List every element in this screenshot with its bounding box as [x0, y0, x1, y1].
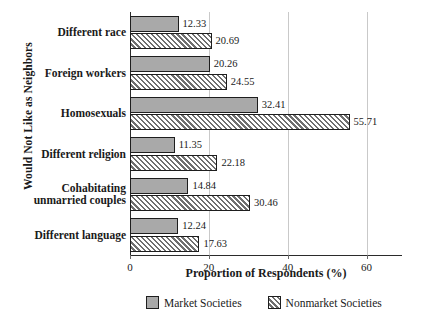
chart-figure: Would Not Like as Neighbors Different ra…	[0, 0, 422, 324]
bar-value-label: 12.24	[182, 218, 206, 234]
bar-market-3	[130, 137, 175, 153]
category-label-3: Different religion	[4, 148, 126, 161]
bar-value-label: 22.18	[221, 155, 245, 171]
tick-20	[209, 255, 210, 259]
category-label-line: Homosexuals	[61, 107, 126, 119]
bar-nonmarket-1	[130, 74, 227, 90]
bar-market-4	[130, 178, 188, 194]
category-label-4: Cohabitatingunmarried couples	[4, 182, 126, 207]
bar-value-label: 55.71	[354, 114, 378, 130]
legend-swatch-icon	[268, 296, 281, 309]
bar-value-label: 12.33	[183, 16, 207, 32]
category-label-line: Foreign workers	[45, 67, 126, 79]
legend-swatch-icon	[146, 296, 159, 309]
bar-value-label: 20.26	[214, 56, 238, 72]
bar-nonmarket-0	[130, 33, 212, 49]
gridline-40	[288, 12, 289, 255]
category-label-5: Different language	[4, 229, 126, 242]
legend-label: Nonmarket Societies	[286, 297, 382, 309]
category-label-0: Different race	[4, 26, 126, 39]
bar-market-2	[130, 97, 258, 113]
bar-market-5	[130, 218, 178, 234]
category-label-line: unmarried couples	[34, 194, 126, 206]
tick-40	[288, 255, 289, 259]
x-axis-title: Proportion of Respondents (%)	[130, 266, 402, 281]
gridline-60	[367, 12, 368, 255]
category-label-line: Different religion	[41, 148, 126, 160]
tick-60	[367, 255, 368, 259]
plot-area: 0204060 12.3320.6920.2624.5532.4155.7111…	[130, 12, 402, 255]
bar-nonmarket-4	[130, 195, 250, 211]
tick-0	[130, 255, 131, 259]
category-label-line: Different race	[58, 26, 126, 38]
bar-market-0	[130, 16, 179, 32]
bar-value-label: 14.84	[192, 178, 216, 194]
bar-value-label: 24.55	[231, 74, 255, 90]
legend-item-nonmarket[interactable]: Nonmarket Societies	[268, 296, 382, 309]
bar-nonmarket-3	[130, 155, 217, 171]
legend-item-market[interactable]: Market Societies	[146, 296, 242, 309]
bar-value-label: 32.41	[262, 97, 286, 113]
bar-value-label: 17.63	[203, 236, 227, 252]
bar-nonmarket-2	[130, 114, 350, 130]
chart-legend: Market SocietiesNonmarket Societies	[146, 296, 408, 309]
category-axis-labels: Different raceForeign workersHomosexuals…	[0, 12, 126, 255]
bar-market-1	[130, 56, 210, 72]
bar-value-label: 11.35	[179, 137, 202, 153]
category-label-1: Foreign workers	[4, 67, 126, 80]
x-axis-line	[130, 255, 402, 256]
category-label-2: Homosexuals	[4, 107, 126, 120]
bar-nonmarket-5	[130, 236, 199, 252]
category-label-line: Cohabitating	[61, 182, 126, 194]
legend-label: Market Societies	[164, 297, 242, 309]
bar-value-label: 30.46	[254, 195, 278, 211]
bar-value-label: 20.69	[216, 33, 240, 49]
category-label-line: Different language	[35, 229, 126, 241]
